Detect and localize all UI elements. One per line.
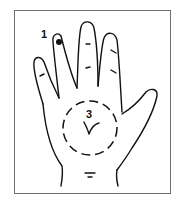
palm-left-outline [43,104,62,186]
check-mark [84,122,99,134]
point-1-dot [56,39,62,45]
wrist-right-outline [117,170,118,186]
thumb-outline [117,89,157,170]
point-1-label: 1 [41,29,47,40]
middle-finger-outline [77,22,98,88]
hand-outline-illustration [0,0,180,202]
ring-finger-outline [98,33,122,112]
point-3-label: 3 [86,109,92,120]
